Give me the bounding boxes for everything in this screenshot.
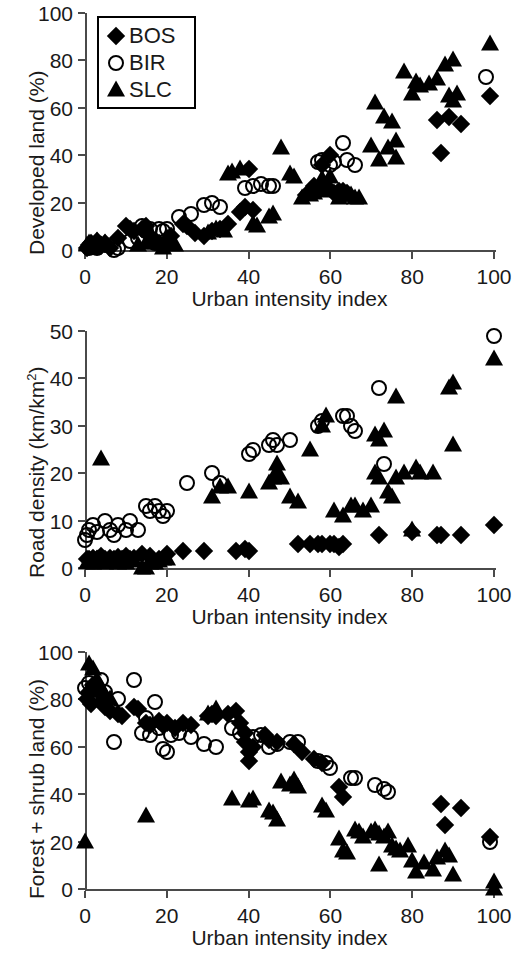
x-tick-label: 60 xyxy=(319,266,342,287)
data-point-slc xyxy=(317,801,335,817)
x-axis-line xyxy=(85,889,496,891)
data-point-slc xyxy=(387,388,405,404)
data-point-slc xyxy=(272,468,290,484)
data-point-slc xyxy=(137,806,155,822)
diamond-icon xyxy=(107,26,125,44)
data-point-slc xyxy=(448,84,466,100)
y-tick xyxy=(78,746,85,748)
data-point-slc xyxy=(285,167,303,183)
y-tick-label: 0 xyxy=(61,240,73,261)
data-point-slc xyxy=(424,464,442,480)
y-tick-label: 80 xyxy=(50,689,73,710)
data-point-slc xyxy=(338,844,356,860)
x-tick xyxy=(411,252,413,259)
data-point-bir xyxy=(482,834,498,850)
x-tick-label: 20 xyxy=(155,266,178,287)
y-tick xyxy=(78,793,85,795)
data-point-bir xyxy=(347,770,363,786)
data-point-bir xyxy=(347,423,363,439)
y-tick-label: 20 xyxy=(50,831,73,852)
y-tick xyxy=(78,202,85,204)
x-axis-title: Urban intensity index xyxy=(191,288,387,310)
legend-symbol-slc xyxy=(105,79,127,101)
data-point-slc xyxy=(215,221,233,237)
x-tick xyxy=(493,252,495,259)
x-tick-label: 40 xyxy=(237,905,260,926)
data-point-bir xyxy=(106,734,122,750)
x-tick-label: 60 xyxy=(319,584,342,605)
y-tick xyxy=(78,520,85,522)
data-point-bir xyxy=(179,475,195,491)
data-point-slc xyxy=(387,148,405,164)
data-point-bir xyxy=(208,739,224,755)
data-point-slc xyxy=(350,188,368,204)
data-point-slc xyxy=(387,131,405,147)
legend-symbol-bir xyxy=(105,52,127,74)
data-point-slc xyxy=(240,483,258,499)
x-tick xyxy=(493,570,495,577)
x-tick xyxy=(248,570,250,577)
y-axis-title: Road density (km/km2) xyxy=(26,367,48,578)
data-point-slc xyxy=(485,879,503,895)
legend-label: BOS xyxy=(129,25,175,47)
data-point-slc xyxy=(444,51,462,67)
x-tick-label: 100 xyxy=(476,584,511,605)
data-point-bir xyxy=(371,380,387,396)
data-point-slc xyxy=(289,777,307,793)
data-point-slc xyxy=(231,160,249,176)
y-tick-label: 40 xyxy=(50,784,73,805)
x-tick xyxy=(411,891,413,898)
x-axis-title: Urban intensity index xyxy=(191,606,387,628)
data-point-slc xyxy=(317,407,335,423)
y-tick-label: 60 xyxy=(50,736,73,757)
legend-label: SLC xyxy=(129,79,172,101)
data-point-bir xyxy=(478,69,494,85)
data-point-slc xyxy=(96,233,114,249)
y-tick-label: 0 xyxy=(61,879,73,900)
data-point-slc xyxy=(444,865,462,881)
y-axis-title-base: Road density (km/km xyxy=(25,381,48,578)
x-tick xyxy=(248,891,250,898)
x-tick-label: 80 xyxy=(401,584,424,605)
x-tick xyxy=(329,570,331,577)
y-tick xyxy=(78,472,85,474)
x-tick xyxy=(411,570,413,577)
data-point-bir xyxy=(282,432,298,448)
data-point-slc xyxy=(383,487,401,503)
y-tick-label: 20 xyxy=(50,463,73,484)
legend-item-bos[interactable]: BOS xyxy=(105,22,186,49)
data-point-slc xyxy=(301,440,319,456)
data-point-slc xyxy=(166,236,184,252)
y-tick xyxy=(78,330,85,332)
y-tick xyxy=(78,107,85,109)
data-point-slc xyxy=(444,435,462,451)
legend-symbol-bos xyxy=(105,25,127,47)
y-tick-label: 30 xyxy=(50,415,73,436)
data-point-bir xyxy=(159,744,175,760)
y-tick xyxy=(78,425,85,427)
y-tick xyxy=(78,651,85,653)
x-tick-label: 20 xyxy=(155,905,178,926)
data-point-bir xyxy=(380,784,396,800)
data-point-slc xyxy=(383,112,401,128)
x-tick-label: 0 xyxy=(79,266,91,287)
data-point-bir xyxy=(335,135,351,151)
legend-item-slc[interactable]: SLC xyxy=(105,76,186,103)
x-tick-label: 0 xyxy=(79,584,91,605)
data-point-slc xyxy=(370,856,388,872)
y-axis-title-tail: ) xyxy=(25,367,48,374)
x-tick-label: 100 xyxy=(476,266,511,287)
data-point-bir xyxy=(130,522,146,538)
legend: BOSBIRSLC xyxy=(97,16,196,109)
data-point-slc xyxy=(92,449,110,465)
data-point-slc xyxy=(481,34,499,50)
x-tick-label: 20 xyxy=(155,584,178,605)
data-point-slc xyxy=(244,789,262,805)
y-tick xyxy=(78,12,85,14)
y-tick xyxy=(78,154,85,156)
x-tick-label: 80 xyxy=(401,266,424,287)
legend-item-bir[interactable]: BIR xyxy=(105,49,186,76)
y-tick-label: 0 xyxy=(61,558,73,579)
x-tick-label: 80 xyxy=(401,905,424,926)
data-point-slc xyxy=(485,350,503,366)
